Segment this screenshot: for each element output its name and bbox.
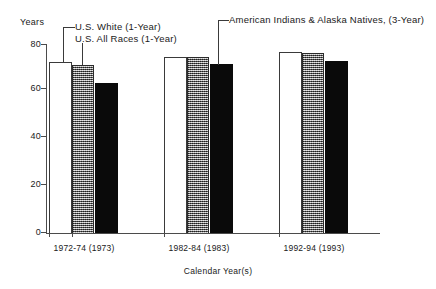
bar-white-1982: [164, 57, 187, 234]
x-tick-mark-3: [279, 233, 280, 237]
x-group-label-1992: 1992-94 (1993): [255, 243, 373, 253]
bar-aian-1992: [325, 61, 348, 234]
y-tick-mark-60: [41, 88, 46, 89]
bar-white-1972: [49, 62, 72, 234]
bar-chart: Years 80 60 40 20 0 1972-74 (1973) 1982-…: [0, 0, 436, 289]
leader-us-white-horizontal: [63, 27, 75, 28]
y-tick-mark-20: [41, 184, 46, 185]
x-axis-title: Calendar Year(s): [0, 266, 436, 276]
x-axis-line: [46, 233, 380, 234]
x-tick-mark-2: [164, 233, 165, 237]
annotation-aian-label: American Indians & Alaska Natives, (3-Ye…: [229, 14, 424, 25]
y-axis-line: [46, 44, 47, 233]
y-tick-label-40: 40: [17, 131, 41, 141]
annotation-us-all-races-label: U.S. All Races (1-Year): [75, 33, 177, 44]
x-group-label-1972: 1972-74 (1973): [25, 243, 143, 253]
leader-us-white-vertical: [63, 27, 64, 62]
x-group-label-1982: 1982-84 (1983): [140, 243, 258, 253]
bar-allraces-1972: [72, 65, 94, 234]
y-tick-label-0: 0: [17, 227, 41, 237]
y-tick-label-60: 60: [17, 83, 41, 93]
bar-white-1992: [279, 52, 302, 234]
bar-aian-1982: [210, 64, 233, 234]
leader-aian-horizontal: [218, 20, 229, 21]
x-tick-mark-0: [49, 233, 50, 237]
y-tick-mark-40: [41, 136, 46, 137]
y-tick-mark-80: [41, 44, 46, 45]
y-tick-label-80: 80: [17, 39, 41, 49]
y-axis-title: Years: [20, 17, 44, 27]
y-tick-label-20: 20: [17, 179, 41, 189]
leader-us-all-races-vertical: [82, 43, 83, 65]
leader-aian-vertical: [218, 20, 219, 65]
bar-aian-1972: [95, 83, 118, 234]
bar-allraces-1982: [187, 57, 209, 234]
x-tick-mark-1: [72, 233, 73, 237]
annotation-us-white-label: U.S. White (1-Year): [75, 21, 161, 32]
bar-allraces-1992: [302, 53, 324, 234]
